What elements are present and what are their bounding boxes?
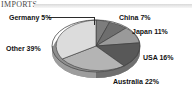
header-divider-rule	[34, 4, 192, 8]
pie-label-australia: Australia 22%	[113, 78, 159, 86]
leader-line-germany	[48, 17, 95, 18]
chart-area: Germany 5% China 7% Japan 11% USA 16% Au…	[0, 12, 194, 94]
pie-label-japan: Japan 11%	[132, 28, 168, 36]
leader-tick-germany	[94, 17, 95, 25]
pie-label-other: Other 39%	[6, 45, 41, 53]
pie-chart-graphic	[46, 12, 146, 84]
imports-pie-chart-figure: IMPORTS	[0, 0, 194, 94]
figure-header: IMPORTS	[0, 0, 194, 12]
pie-label-china: China 7%	[119, 14, 151, 22]
page-title: IMPORTS	[1, 0, 37, 10]
pie-label-usa: USA 16%	[143, 54, 173, 62]
pie-label-germany: Germany 5%	[9, 14, 51, 22]
pie-chart	[46, 12, 146, 84]
